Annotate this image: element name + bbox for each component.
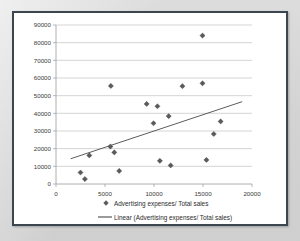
x-tick-label: 0 [54, 190, 58, 197]
legend-label-series: Advertising expenses/ Total sales [114, 200, 208, 208]
y-tick-label: 0 [48, 180, 52, 187]
x-tick-label: 15000 [194, 190, 212, 197]
x-tick-label: 10000 [145, 190, 163, 197]
chart-card: 0100002000030000400005000060000700008000… [12, 11, 288, 226]
x-tick-label: 20000 [243, 190, 261, 197]
legend-label-trendline: Linear (Advertising expenses/ Total sale… [114, 214, 232, 222]
y-tick-label: 80000 [34, 39, 52, 46]
y-tick-label: 90000 [34, 21, 52, 28]
y-tick-label: 30000 [34, 127, 52, 134]
y-tick-label: 50000 [34, 92, 52, 99]
x-tick-label: 5000 [98, 190, 112, 197]
scatter-chart-svg: 0100002000030000400005000060000700008000… [14, 13, 286, 224]
y-tick-label: 40000 [34, 110, 52, 117]
chart-plot-container: 0100002000030000400005000060000700008000… [14, 13, 286, 224]
y-tick-label: 60000 [34, 74, 52, 81]
y-tick-label: 20000 [34, 145, 52, 152]
y-tick-label: 10000 [34, 163, 52, 170]
y-tick-label: 70000 [34, 57, 52, 64]
